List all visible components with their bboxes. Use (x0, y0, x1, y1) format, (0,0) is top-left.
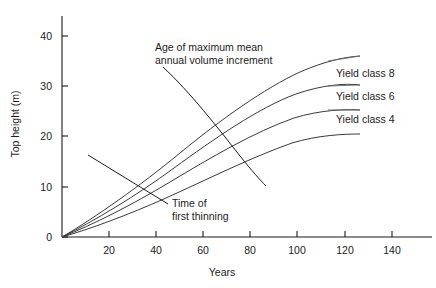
y-tick-label-40: 40 (18, 30, 52, 42)
annotation-age-max-increment-line2: annual volume increment (155, 54, 272, 67)
y-tick-label-0: 0 (18, 231, 52, 243)
series-label-yield-class-8: Yield class 8 (336, 67, 395, 79)
y-tick-label-20: 20 (18, 130, 52, 142)
y-tick-label-30: 30 (18, 80, 52, 92)
x-tick-label-100: 100 (277, 244, 317, 256)
x-tick-label-140: 140 (372, 244, 412, 256)
annotation-first-thinning-line2: first thinning (172, 210, 229, 223)
leader-first-thinning (88, 155, 168, 204)
x-tick-label-40: 40 (136, 244, 176, 256)
series-label-yield-class-6: Yield class 6 (336, 90, 395, 102)
y-tick-marks (62, 36, 68, 237)
annotation-first-thinning: Time of first thinning (172, 197, 229, 222)
series-label-yield-class-4: Yield class 4 (336, 113, 395, 125)
leader-age-max-increment (163, 67, 266, 186)
annotation-age-max-increment-line1: Age of maximum mean (155, 41, 272, 54)
x-axis-title: Years (182, 266, 262, 278)
y-tick-label-10: 10 (18, 181, 52, 193)
x-tick-label-20: 20 (89, 244, 129, 256)
annotation-first-thinning-line1: Time of (172, 197, 229, 210)
annotation-age-max-increment: Age of maximum mean annual volume increm… (155, 41, 272, 66)
x-tick-label-80: 80 (230, 244, 270, 256)
x-tick-label-60: 60 (183, 244, 223, 256)
x-tick-label-120: 120 (325, 244, 365, 256)
y-axis-title: Top height (m) (9, 78, 21, 170)
x-tick-marks (109, 231, 392, 237)
chart-figure: 40 30 20 10 0 20 40 60 80 100 120 140 To… (0, 0, 436, 288)
